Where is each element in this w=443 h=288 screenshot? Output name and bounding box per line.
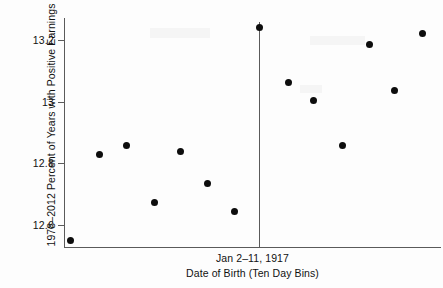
data-point	[391, 87, 398, 94]
x-axis-label: Date of Birth (Ten Day Bins)	[64, 266, 441, 281]
x-axis-label-block: Jan 2–11, 1917 Date of Birth (Ten Day Bi…	[64, 251, 441, 281]
data-point	[339, 142, 346, 149]
cutoff-annotation-label: Jan 2–11, 1917	[64, 251, 441, 266]
data-point	[151, 199, 158, 206]
data-point	[256, 24, 263, 31]
data-point	[123, 142, 130, 149]
scan-artifact	[300, 85, 322, 93]
y-tick-label: 13.2	[33, 34, 54, 46]
cutoff-vertical-line	[259, 22, 260, 247]
y-tick-mark	[58, 225, 65, 226]
y-tick-label-wrap: 13	[0, 96, 54, 109]
data-point	[285, 79, 292, 86]
y-axis-spine	[64, 18, 65, 247]
data-point	[419, 30, 426, 37]
scan-artifact	[310, 36, 365, 45]
data-point	[204, 180, 211, 187]
scan-artifact	[150, 28, 210, 38]
y-tick-mark	[58, 102, 65, 103]
data-point	[366, 41, 373, 48]
y-tick-mark	[58, 163, 65, 164]
y-tick-label-wrap: 13.2	[0, 34, 54, 47]
data-point	[96, 151, 103, 158]
scatter-plot-figure: 1978–2012 Percent of Years with Positive…	[0, 0, 443, 288]
x-axis-spine	[64, 247, 441, 248]
y-tick-label-wrap: 12.6	[0, 219, 54, 232]
data-point	[67, 237, 74, 244]
y-tick-label-wrap: 12.8	[0, 157, 54, 170]
y-tick-mark	[58, 40, 65, 41]
y-tick-label: 12.6	[33, 219, 54, 231]
y-tick-label: 12.8	[33, 157, 54, 169]
y-tick-label: 13	[42, 96, 54, 108]
data-point	[177, 148, 184, 155]
data-point	[231, 208, 238, 215]
data-point	[310, 97, 317, 104]
